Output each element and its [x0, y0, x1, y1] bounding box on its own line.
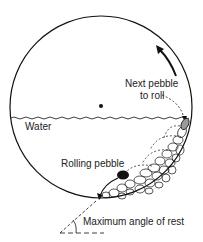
max-angle-label: Maximum angle of rest [83, 216, 184, 227]
next-pebble-label-line2: to roll [140, 90, 164, 101]
rotation-arrow-icon [156, 45, 176, 76]
axis-dot [99, 104, 103, 108]
rolling-pebble-label: Rolling pebble [61, 158, 124, 169]
next-pebble-leader [162, 95, 184, 118]
water-surface [11, 117, 189, 119]
water-label: Water [25, 121, 51, 132]
rolling-pebble [117, 171, 129, 180]
next-pebble-label: Next pebble [125, 78, 178, 89]
